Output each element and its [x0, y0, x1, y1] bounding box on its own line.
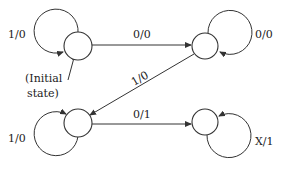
state-diagram: 1/0 0/0 0/0 1/0 1/0 0/1 X/1 (Initial sta… — [0, 0, 286, 170]
label-d-self: X/1 — [255, 135, 274, 148]
label-a-self: 1/0 — [8, 28, 26, 41]
label-c-self: 1/0 — [8, 132, 26, 145]
label-b-self: 0/0 — [255, 28, 273, 41]
label-b-c: 1/0 — [129, 68, 151, 88]
state-b — [192, 33, 218, 59]
label-a-b: 0/0 — [133, 28, 151, 41]
state-a — [64, 32, 92, 60]
state-c — [64, 109, 92, 137]
initial-note-line1: (Initial — [25, 72, 63, 85]
state-d — [192, 109, 218, 135]
initial-note-line2: state) — [27, 87, 59, 100]
label-c-d: 0/1 — [133, 108, 151, 121]
